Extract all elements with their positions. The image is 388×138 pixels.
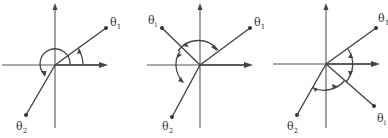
y-axis-arrow-icon (324, 3, 329, 10)
thetai-to-theta2-arc (313, 80, 345, 90)
theta1-label: θ1 (254, 16, 265, 31)
theta2-ray (297, 64, 326, 115)
arc-arrow-icon (178, 77, 184, 83)
panel-1: θ1 θ2 (2, 3, 121, 135)
theta1-to-thetai-arc (346, 49, 353, 82)
theta2-ray (26, 65, 55, 115)
panel-2: θi θ1 θ2 (147, 3, 265, 135)
x-axis-arrow-icon (371, 61, 380, 67)
theta1-label: θ1 (110, 16, 121, 31)
theta1-point (374, 26, 378, 30)
thetai-label: θi (148, 14, 158, 29)
theta2-point (295, 113, 299, 117)
thetai-point (372, 104, 376, 108)
thetai-point (160, 26, 164, 30)
theta1-point (248, 26, 252, 30)
theta2-label: θ2 (162, 120, 173, 135)
y-axis-arrow-icon (53, 3, 58, 10)
theta1-ray (200, 28, 250, 65)
x-axis-arrow-icon (244, 62, 253, 68)
theta2-label: θ2 (287, 120, 298, 135)
panel-3: θ1 θi θ2 (273, 3, 388, 135)
y-axis-arrow-icon (198, 3, 203, 10)
arc-arrow-icon (41, 71, 47, 77)
theta1-ray (326, 28, 376, 64)
x-axis-arrow-icon (99, 62, 108, 68)
angle-diagram: θ1 θ2 θi θ1 θ2 (0, 0, 388, 138)
theta1-ray (55, 28, 106, 65)
thetai-ray (162, 28, 200, 65)
arc-arrow-icon (313, 87, 318, 92)
theta2-point (170, 115, 174, 119)
thetai-label: θi (377, 112, 387, 127)
theta1-point (104, 26, 108, 30)
theta2-point (24, 113, 28, 117)
theta2-label: θ2 (16, 120, 27, 135)
theta1-label: θ1 (378, 12, 388, 27)
theta2-ray (172, 65, 200, 117)
